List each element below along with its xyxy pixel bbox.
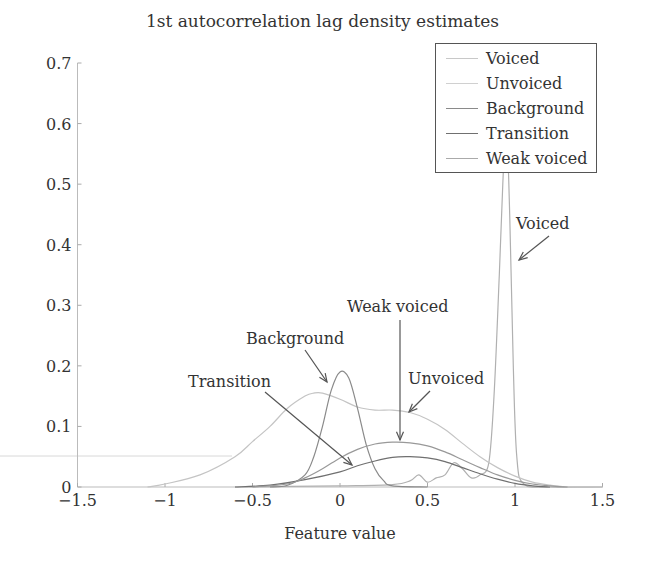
annotation-weak-voiced: Weak voiced [347, 297, 448, 316]
x-tick-label: −1 [153, 491, 177, 510]
arrowhead-icon [319, 373, 327, 382]
annotation-arrow [519, 236, 549, 260]
x-tick-label: 0 [335, 491, 345, 510]
curve-unvoiced [148, 393, 603, 488]
legend-item-weak-voiced: Weak voiced [436, 146, 587, 170]
legend-swatch-transition [446, 133, 478, 134]
y-tick-label: 0.3 [46, 296, 71, 315]
legend-label: Background [486, 99, 584, 118]
annotation-voiced: Voiced [516, 214, 570, 233]
curve-transition [235, 457, 550, 487]
y-tick-label: 0.1 [46, 417, 71, 436]
legend-item-transition: Transition [436, 121, 569, 145]
legend-swatch-background [446, 108, 478, 109]
y-tick-label: 0.5 [46, 175, 71, 194]
annotation-arrows [265, 236, 549, 465]
legend-label: Weak voiced [486, 149, 587, 168]
annotation-unvoiced: Unvoiced [408, 369, 484, 388]
annotation-transition: Transition [188, 372, 271, 391]
y-tick-label: 0.4 [46, 236, 71, 255]
y-tick-label: 0.2 [46, 357, 71, 376]
legend-item-background: Background [436, 96, 584, 120]
annotation-background: Background [246, 329, 344, 348]
annotation-arrow [305, 350, 327, 382]
annotation-arrow [265, 392, 352, 465]
legend-item-voiced: Voiced [436, 46, 540, 70]
y-tick-label: 0.7 [46, 54, 71, 73]
legend: Voiced Unvoiced Background Transition We… [435, 43, 597, 173]
x-axis-label: Feature value [0, 524, 645, 543]
annotation-arrow [409, 391, 430, 412]
x-tick-label: 1.5 [590, 491, 615, 510]
legend-label: Unvoiced [486, 74, 562, 93]
x-tick-label: −1.5 [58, 491, 97, 510]
legend-label: Voiced [486, 49, 540, 68]
legend-item-unvoiced: Unvoiced [436, 71, 562, 95]
x-tick-label: 1 [510, 491, 520, 510]
legend-swatch-weak-voiced [446, 158, 478, 159]
legend-swatch-unvoiced [446, 83, 478, 84]
x-tick-label: 0.5 [415, 491, 440, 510]
legend-label: Transition [486, 124, 569, 143]
y-tick-label: 0.6 [46, 115, 71, 134]
legend-swatch-voiced [446, 58, 478, 59]
x-tick-label: −0.5 [233, 491, 272, 510]
